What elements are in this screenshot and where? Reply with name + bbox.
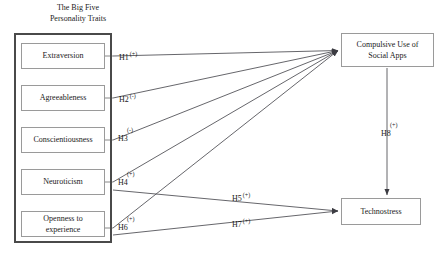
hypothesis-id-h4: H4 bbox=[118, 178, 128, 187]
hypothesis-sign-h2: (-) bbox=[130, 93, 136, 99]
figure-title-line-2: Personality Traits bbox=[18, 13, 138, 24]
connector-h3 bbox=[113, 51, 338, 141]
hypothesis-id-h7: H7 bbox=[232, 220, 242, 229]
hypothesis-label-h7: H7(+) bbox=[232, 217, 250, 229]
hypothesis-label-h2: H2(-) bbox=[119, 92, 136, 104]
hypothesis-sign-h8: (+) bbox=[390, 121, 397, 130]
hypothesis-label-h5: H5(+) bbox=[232, 191, 250, 203]
connector-h4 bbox=[113, 51, 338, 183]
connector-h1 bbox=[113, 51, 338, 57]
trait-box-extraversion: Extraversion bbox=[21, 43, 105, 69]
connector-h2 bbox=[113, 51, 338, 99]
outcome-label-technostress: Technostress bbox=[360, 206, 401, 217]
outcome-label-compulsive-use-line-2: Social Apps bbox=[368, 51, 406, 60]
trait-label-openness-line-1: Openness to bbox=[43, 214, 82, 223]
hypothesis-id-h8: H8 bbox=[381, 129, 391, 138]
trait-box-openness: Openness to experience bbox=[21, 211, 105, 237]
outcome-box-compulsive-use: Compulsive Use of Social Apps bbox=[341, 33, 434, 67]
hypothesis-sign-h4: (+) bbox=[127, 170, 134, 179]
connector-h7 bbox=[113, 211, 338, 235]
outcome-label-compulsive-use: Compulsive Use of Social Apps bbox=[357, 39, 419, 61]
outcome-box-technostress: Technostress bbox=[341, 198, 421, 225]
hypothesis-id-h6: H6 bbox=[118, 223, 128, 232]
connector-h5 bbox=[113, 190, 338, 211]
hypothesis-sign-h1: (+) bbox=[130, 51, 137, 57]
trait-label-extraversion: Extraversion bbox=[43, 51, 84, 61]
trait-label-agreeableness: Agreeableness bbox=[40, 93, 87, 103]
hypothesis-label-h3: (-)H3 bbox=[118, 126, 133, 143]
figure-canvas: The Big Five Personality Traits Extraver… bbox=[0, 0, 445, 280]
trait-label-openness: Openness to experience bbox=[43, 213, 82, 235]
figure-title: The Big Five Personality Traits bbox=[18, 2, 138, 24]
trait-label-conscientiousness: Conscientiousness bbox=[33, 135, 92, 145]
connector-h6 bbox=[113, 51, 338, 229]
trait-label-openness-line-2: experience bbox=[46, 225, 81, 234]
hypothesis-sign-h5: (+) bbox=[243, 192, 250, 198]
hypothesis-id-h1: H1 bbox=[119, 53, 129, 62]
hypothesis-sign-h7: (+) bbox=[243, 218, 250, 224]
trait-box-agreeableness: Agreeableness bbox=[21, 85, 105, 111]
trait-box-neuroticism: Neuroticism bbox=[21, 169, 105, 195]
trait-box-conscientiousness: Conscientiousness bbox=[21, 127, 105, 153]
hypothesis-id-h3: H3 bbox=[118, 134, 128, 143]
hypothesis-sign-h6: (+) bbox=[127, 215, 134, 224]
hypothesis-sign-h3: (-) bbox=[127, 126, 133, 135]
hypothesis-id-h5: H5 bbox=[232, 194, 242, 203]
figure-title-line-1: The Big Five bbox=[18, 2, 138, 13]
hypothesis-label-h6: (+)H6 bbox=[118, 215, 134, 232]
trait-label-neuroticism: Neuroticism bbox=[43, 177, 83, 187]
hypothesis-label-h8: (+)H8 bbox=[381, 121, 397, 138]
hypothesis-id-h2: H2 bbox=[119, 95, 129, 104]
outcome-label-compulsive-use-line-1: Compulsive Use of bbox=[357, 40, 419, 49]
hypothesis-label-h4: (+)H4 bbox=[118, 170, 134, 187]
hypothesis-label-h1: H1(+) bbox=[119, 50, 137, 62]
